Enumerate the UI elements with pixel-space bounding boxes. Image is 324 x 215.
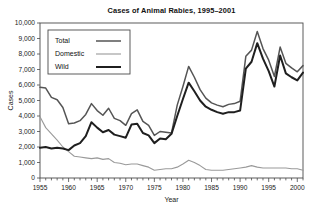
y-tick-label: 9,000	[18, 35, 35, 42]
legend-label-wild: Wild	[55, 63, 69, 70]
x-tick-label: 1955	[33, 184, 48, 191]
chart-title: Cases of Animal Rabies, 1995–2001	[108, 6, 236, 15]
x-tick-label: 1985	[204, 184, 219, 191]
y-tick-label: 2,000	[18, 143, 35, 150]
y-tick-label: 6,000	[18, 81, 35, 88]
x-tick-label: 1970	[118, 184, 133, 191]
legend-label-total: Total	[55, 37, 70, 44]
x-tick-label: 2000	[290, 184, 305, 191]
rabies-line-chart: Cases of Animal Rabies, 1995–200101,0002…	[0, 0, 324, 215]
chart-canvas: Cases of Animal Rabies, 1995–200101,0002…	[0, 0, 324, 215]
y-tick-label: 4,000	[18, 112, 35, 119]
y-tick-label: 8,000	[18, 50, 35, 57]
x-tick-label: 1980	[176, 184, 191, 191]
y-tick-label: 7,000	[18, 66, 35, 73]
x-tick-label: 1990	[233, 184, 248, 191]
x-axis-label: Year	[164, 196, 179, 203]
y-tick-label: 5,000	[18, 97, 35, 104]
y-tick-label: 3,000	[18, 128, 35, 135]
y-axis-label: Cases	[7, 90, 14, 110]
x-tick-label: 1995	[261, 184, 276, 191]
y-tick-label: 1,000	[18, 159, 35, 166]
x-tick-label: 1960	[61, 184, 76, 191]
y-tick-label: 10,000	[15, 19, 36, 26]
legend-label-domestic: Domestic	[55, 50, 85, 57]
x-tick-label: 1965	[90, 184, 105, 191]
y-tick-label: 0	[31, 174, 35, 181]
x-tick-label: 1975	[147, 184, 162, 191]
